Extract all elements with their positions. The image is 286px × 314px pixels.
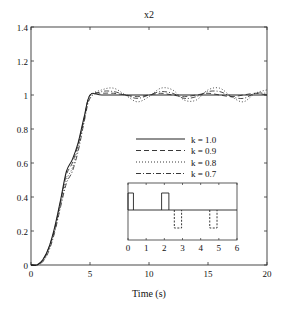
inset-tick-label: 2 <box>162 243 167 253</box>
x-axis-ticks: 05101520 <box>29 27 272 279</box>
inset-tick-label: 1 <box>144 243 149 253</box>
legend-label: k = 1.0 <box>191 135 217 145</box>
inset-tick-label: 6 <box>235 243 240 253</box>
legend: k = 1.0k = 0.9k = 0.8k = 0.7 <box>136 135 217 180</box>
chart: x2 00.20.40.60.811.21.4 05101520 k = 1.0… <box>0 0 286 314</box>
y-tick-label: 1.4 <box>17 23 29 33</box>
chart-title: x2 <box>144 9 154 20</box>
x-tick-label: 10 <box>145 269 155 279</box>
x-tick-label: 5 <box>88 269 93 279</box>
x-axis-label: Time (s) <box>132 288 166 300</box>
y-tick-label: 1.2 <box>17 57 28 67</box>
y-tick-label: 0.2 <box>17 227 28 237</box>
x-tick-label: 20 <box>263 269 273 279</box>
legend-label: k = 0.8 <box>191 158 217 168</box>
legend-label: k = 0.9 <box>191 146 217 156</box>
inset-tick-label: 4 <box>198 243 203 253</box>
x-tick-label: 15 <box>204 269 214 279</box>
y-tick-label: 0.6 <box>17 159 29 169</box>
legend-label: k = 0.7 <box>191 169 217 179</box>
y-tick-label: 0 <box>24 261 29 271</box>
inset-tick-label: 5 <box>217 243 222 253</box>
y-tick-label: 1 <box>24 91 29 101</box>
y-tick-label: 0.4 <box>17 193 29 203</box>
inset-plot: 0123456 <box>126 183 240 253</box>
inset-tick-label: 3 <box>180 243 185 253</box>
inset-tick-label: 0 <box>126 243 131 253</box>
x-tick-label: 0 <box>29 269 34 279</box>
y-tick-label: 0.8 <box>17 125 29 135</box>
